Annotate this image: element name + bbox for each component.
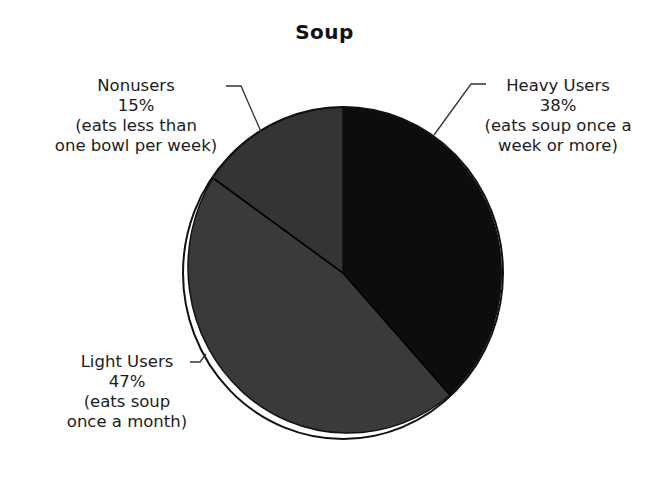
label-light-users: Light Users 47% (eats soup once a month) bbox=[62, 352, 192, 432]
label-nonusers-pct: 15% bbox=[46, 96, 226, 116]
label-nonusers-desc-2: one bowl per week) bbox=[46, 136, 226, 156]
label-light-users-name: Light Users bbox=[62, 352, 192, 372]
label-heavy-users-desc-1: (eats soup once a bbox=[468, 116, 648, 136]
label-heavy-users: Heavy Users 38% (eats soup once a week o… bbox=[468, 76, 648, 156]
label-nonusers-desc-1: (eats less than bbox=[46, 116, 226, 136]
label-light-users-desc-2: once a month) bbox=[62, 412, 192, 432]
label-heavy-users-pct: 38% bbox=[468, 96, 648, 116]
label-heavy-users-name: Heavy Users bbox=[468, 76, 648, 96]
leader-line-nonusers bbox=[226, 86, 262, 134]
label-nonusers: Nonusers 15% (eats less than one bowl pe… bbox=[46, 76, 226, 156]
label-heavy-users-desc-2: week or more) bbox=[468, 136, 648, 156]
label-light-users-desc-1: (eats soup bbox=[62, 392, 192, 412]
label-light-users-pct: 47% bbox=[62, 372, 192, 392]
label-nonusers-name: Nonusers bbox=[46, 76, 226, 96]
